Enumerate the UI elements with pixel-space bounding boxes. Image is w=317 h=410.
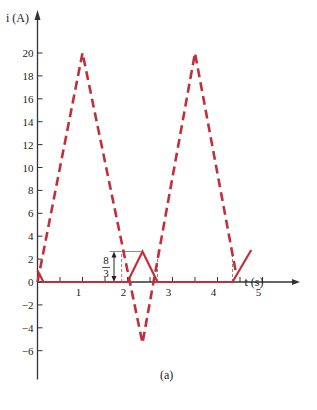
x-axis-arrow-icon [292,279,300,285]
y-tick-label: −6 [22,345,34,357]
arrow-up-icon [112,251,117,257]
y-tick-label: 16 [23,93,35,105]
y-tick-label: −4 [22,322,34,334]
series-dashed [38,53,237,343]
y-tick-label: 10 [23,162,35,174]
y-axis-arrow-icon [35,10,41,20]
y-tick-label: 4 [28,230,34,242]
y-axis-label: i (A) [6,11,29,25]
x-axis-label: t (s) [245,275,264,289]
fraction-numerator: 8 [103,254,109,266]
chart: −6−4−20246810121416182012345i (A)t (s)83 [0,0,317,410]
y-tick-label: −2 [22,299,34,311]
x-tick-label: 4 [211,286,217,298]
x-tick-label: 1 [76,286,82,298]
y-tick-label: 18 [23,70,35,82]
x-tick-label: 3 [166,286,172,298]
y-tick-label: 20 [23,47,35,59]
y-tick-label: 0 [28,276,34,288]
x-tick-label: 2 [121,286,127,298]
y-tick-label: 6 [28,207,34,219]
y-tick-label: 14 [23,116,35,128]
fraction-denominator: 3 [103,267,109,279]
figure-caption: (a) [160,368,173,383]
y-tick-label: 8 [28,184,34,196]
y-tick-label: 2 [28,253,34,265]
series-solid [38,250,252,282]
y-tick-label: 12 [23,139,34,151]
